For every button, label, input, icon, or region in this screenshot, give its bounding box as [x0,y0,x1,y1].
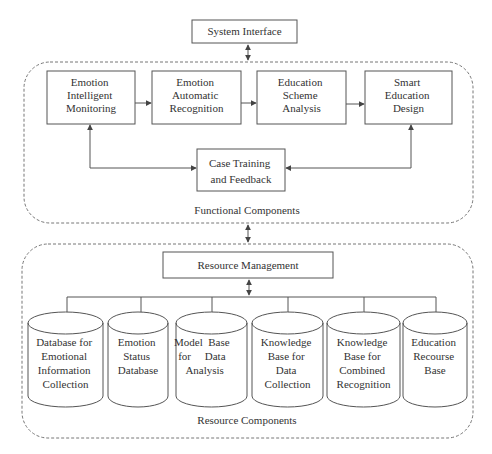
resource-management-box: Resource Management [163,252,333,278]
database-education-recourse-base: Education Recourse Base [403,312,467,407]
feedback-arrow-right [286,125,411,168]
resource-components-title: Resource Components [197,414,296,426]
svg-text:Emotion Automatic: Emotion Automatic Recognition [170,76,224,114]
database-knowledge-base-combined-recognition: Knowledge Base for Combined Recognition [327,312,400,407]
system-interface-box: System Interface [192,20,297,43]
module-emotion-automatic-recognition: Emotion Automatic Recognition [152,71,241,124]
svg-text:Education Scheme A: Education Scheme Analysis [278,76,325,114]
architecture-diagram: System Interface Emotion Intelligent Mon… [0,0,492,454]
functional-components-title: Functional Components [194,204,299,216]
module-smart-education-design: Smart Education Design [365,71,452,124]
module-education-scheme-analysis: Education Scheme Analysis [257,71,346,124]
svg-text:Emotion Status Dat: Emotion Status Database [118,336,159,376]
database-emotion-status: Emotion Status Database [108,312,168,407]
feedback-arrow-left [90,125,196,168]
database-knowledge-base-data-collection: Knowledge Base for Data Collection [252,312,323,407]
database-emotional-information-collection: Database for Emotional Information Colle… [28,312,103,407]
svg-text:Emotion Intelligent: Emotion Intelligent Monitoring [66,76,117,114]
system-interface-label: System Interface [207,25,281,37]
module-emotion-intelligent-monitoring: Emotion Intelligent Monitoring [47,71,135,124]
case-training-feedback-box: Case Training and Feedback [197,149,285,191]
resource-management-label: Resource Management [197,259,298,271]
